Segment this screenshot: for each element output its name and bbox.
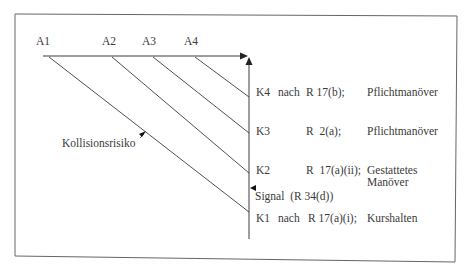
stage-K3-action: Pflichtmanöver bbox=[367, 125, 438, 137]
stage-K1-rule: R 17(a)(i); bbox=[308, 212, 357, 224]
stage-K2-action-line2: Manöver bbox=[367, 176, 409, 188]
stage-K2-action: Gestattetes bbox=[367, 164, 417, 176]
stage-K4: K4 bbox=[256, 86, 270, 98]
collision-arrowhead-icon bbox=[139, 131, 146, 137]
horizontal-arrowhead-icon bbox=[240, 53, 248, 60]
diagonal-A4-K4 bbox=[195, 57, 249, 97]
diagonal-A1-K1 bbox=[49, 57, 249, 212]
diagonal-A3-K3 bbox=[153, 57, 249, 133]
label-A1: A1 bbox=[36, 35, 50, 47]
stage-K4-action: Pflichtmanöver bbox=[367, 86, 438, 98]
stage-K1: K1 bbox=[256, 212, 270, 224]
stage-K4-rule: R 17(b); bbox=[306, 86, 345, 98]
stage-K3: K3 bbox=[256, 125, 270, 137]
stage-K1-action: Kurshalten bbox=[367, 212, 417, 224]
stage-K4-prep: nach bbox=[278, 86, 300, 98]
vertical-arrowhead-icon bbox=[246, 57, 253, 65]
label-A4: A4 bbox=[184, 35, 198, 47]
stage-K3-rule: R 2(a); bbox=[306, 125, 341, 137]
diagonal-A2-K2 bbox=[112, 57, 249, 173]
collision-risk-label: Kollisionsrisiko bbox=[62, 137, 135, 149]
label-A2: A2 bbox=[102, 35, 116, 47]
label-A3: A3 bbox=[142, 35, 156, 47]
stage-K2-rule: R 17(a)(ii); bbox=[306, 164, 361, 176]
signal-label: Signal (R 34(d)) bbox=[255, 190, 333, 202]
stage-K1-prep: nach bbox=[278, 212, 300, 224]
stage-K2: K2 bbox=[256, 164, 270, 176]
